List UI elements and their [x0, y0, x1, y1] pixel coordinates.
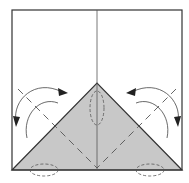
origami-diagram	[0, 0, 189, 183]
